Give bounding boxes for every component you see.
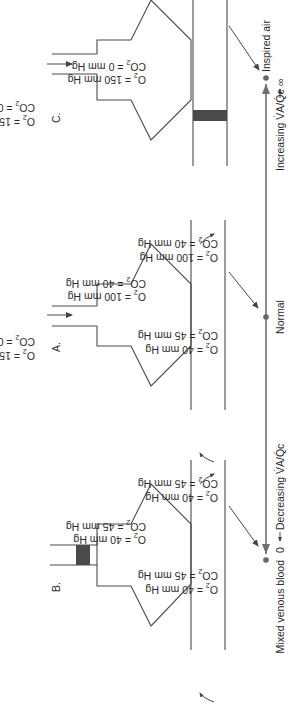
pointer-a-to-axis (229, 272, 258, 308)
label-mixed-venous-blood: Mixed venous blood (274, 560, 286, 654)
point-mixed-venous (263, 557, 269, 563)
capillary-b-out-o2: O2 = 40 mm Hg (145, 490, 218, 504)
panel-b: B. O2 = 40 mm Hg CO2 = 45 mm Hg O2 = 40 … (50, 460, 258, 702)
capillary-a-out-o2: O2 = 100 mm Hg (140, 250, 218, 264)
label-infinity: ∞ (274, 79, 286, 87)
label-increasing: Increasing V̇A/Q̇c (274, 89, 286, 171)
label-zero: 0 (274, 547, 286, 553)
panel-a: A. O2 = 150 mm Hg CO2 = 0 mm Hg O2 = 100… (0, 220, 258, 462)
inspired-c-o2: O2 = 150 mm Hg (0, 114, 35, 128)
flow-arrow-a-in (200, 453, 214, 462)
panel-c: C. O2 = 150 mm Hg CO2 = 0 mm Hg O2 = 150… (0, 0, 259, 166)
label-decreasing: Decreasing V̇A/Q̇c (274, 444, 286, 530)
panel-c-letter: C. (50, 113, 62, 124)
va-q-diagram: B. O2 = 40 mm Hg CO2 = 45 mm Hg O2 = 40 … (0, 0, 291, 706)
label-inspired-air: Inspired air (260, 20, 272, 72)
capillary-b-in-co2: CO2 = 45 mm Hg (138, 568, 218, 582)
airway-obstruction-block (76, 545, 90, 565)
inspired-c-co2: CO2 = 0 mm Hg (0, 100, 35, 114)
pointer-b-to-axis (229, 506, 258, 546)
capillary-obstruction-block (193, 110, 227, 121)
diagram-canvas: B. O2 = 40 mm Hg CO2 = 45 mm Hg O2 = 40 … (0, 0, 291, 706)
flow-arrow-b-in (200, 693, 214, 702)
alveolus-c-co2: CO2 = 0 mm Hg (72, 59, 146, 73)
alveolus-b-o2: O2 = 40 mm Hg (73, 532, 146, 546)
label-normal: Normal (274, 300, 286, 334)
alveolus-b-co2: CO2 = 45 mm Hg (66, 519, 146, 533)
capillary-a-in-o2: O2 = 40 mm Hg (145, 342, 218, 356)
pointer-c-to-axis (229, 26, 259, 70)
point-normal (263, 314, 269, 320)
capillary-a-in-co2: CO2 = 45 mm Hg (138, 328, 218, 342)
alveolus-c-o2: O2 = 150 mm Hg (68, 72, 146, 86)
alveolus-a-outline (97, 244, 191, 386)
capillary-b-in-o2: O2 = 40 mm Hg (145, 582, 218, 596)
panel-a-letter: A. (50, 342, 62, 352)
va-q-axis: Mixed venous blood 0 Decreasing V̇A/Q̇c … (260, 20, 286, 654)
alveolus-a-o2: O2 = 100 mm Hg (68, 289, 146, 303)
panel-b-letter: B. (50, 582, 62, 592)
inspired-a-o2: O2 = 150 mm Hg (0, 348, 35, 362)
rotated-frame: B. O2 = 40 mm Hg CO2 = 45 mm Hg O2 = 40 … (0, 0, 286, 702)
axis-arrow-left-icon (262, 544, 270, 554)
point-inspired-air (263, 75, 269, 81)
alveolus-b-outline (97, 484, 191, 626)
alveolus-a-co2: CO2 = 40 mm Hg (66, 276, 146, 290)
axis-arrow-right-icon (262, 84, 270, 94)
inspired-a-co2: CO2 = 0 mm Hg (0, 334, 35, 348)
